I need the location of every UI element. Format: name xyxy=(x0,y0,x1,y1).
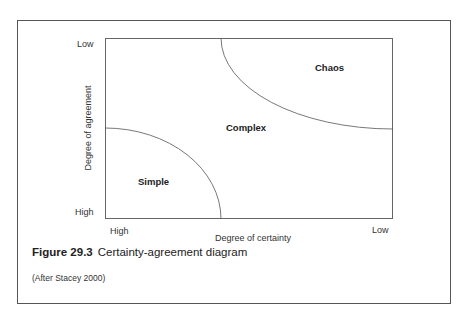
x-axis-left-label: High xyxy=(110,226,129,236)
figure-caption: Figure 29.3Certainty-agreement diagram xyxy=(32,246,247,258)
y-axis-bottom-label: High xyxy=(75,207,94,217)
region-chaos: Chaos xyxy=(315,62,344,73)
x-axis-right-label: Low xyxy=(372,225,389,235)
y-axis-title: Degree of agreement xyxy=(83,85,93,170)
x-axis-title: Degree of certainty xyxy=(215,233,291,243)
figure-title: Certainty-agreement diagram xyxy=(98,246,248,258)
figure-number: Figure 29.3 xyxy=(32,246,93,258)
figure-source: (After Stacey 2000) xyxy=(32,273,105,283)
y-axis-top-label: Low xyxy=(77,39,94,49)
region-complex: Complex xyxy=(226,122,266,133)
chaos-boundary-curve xyxy=(221,38,393,129)
simple-boundary-curve xyxy=(105,128,221,219)
region-simple: Simple xyxy=(138,176,169,187)
